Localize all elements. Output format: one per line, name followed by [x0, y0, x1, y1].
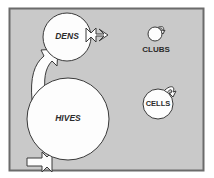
node-clubs-label: CLUBS [142, 45, 170, 54]
node-dens-label: DENS [55, 31, 79, 41]
node-cells-label: CELLS [146, 99, 171, 108]
diagram-svg: CLUBS CELLS DENS HIVES [0, 0, 214, 178]
node-hives-label: HIVES [55, 113, 81, 123]
diagram-canvas: CLUBS CELLS DENS HIVES [0, 0, 214, 178]
node-clubs[interactable] [148, 27, 162, 41]
